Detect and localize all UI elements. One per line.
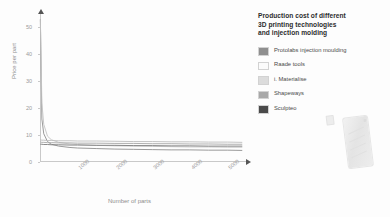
legend-swatch [258,76,269,85]
legend-items: Protolabs injection mouldingRaade toolsi… [258,47,386,114]
legend-swatch [258,62,269,71]
y-axis-label: Price per part [11,43,17,79]
legend-item[interactable]: Sculpteo [258,105,386,114]
legend-title-line-2: 3D printing technologies [258,21,380,30]
y-tick-label: 20 [6,105,32,111]
series-line [40,19,242,150]
y-tick-label: 0 [6,159,32,165]
y-tick-mark [38,162,40,163]
legend-item[interactable]: Protolabs injection moulding [258,47,386,56]
x-axis-arrow-icon [246,159,251,165]
chart-page: 01020304050 10002000300040005000 Price p… [0,0,390,217]
product-body [342,115,374,170]
legend: Production cost of different 3D printing… [258,12,386,119]
chart-region: 01020304050 10002000300040005000 Price p… [0,0,250,217]
y-tick-label: 30 [6,78,32,84]
y-tick-label: 50 [6,24,32,30]
legend-swatch [258,105,269,114]
product-small-part [326,115,335,126]
legend-item-label: Raade tools [274,61,305,68]
series-line [40,140,242,142]
y-tick-label: 40 [6,51,32,57]
legend-item-label: Shapeways [274,90,304,97]
legend-item[interactable]: Shapeways [258,90,386,99]
series-curves [40,14,246,162]
legend-swatch [258,47,269,56]
legend-item[interactable]: Raade tools [258,61,386,70]
legend-item-label: Protolabs injection moulding [274,47,347,54]
legend-title-line-3: and injection molding [258,29,380,38]
series-line [40,19,242,147]
legend-title: Production cost of different 3D printing… [258,12,380,38]
legend-item[interactable]: i. Materialise [258,76,386,85]
legend-swatch [258,91,269,100]
series-line [40,144,242,146]
product-render-3d-printed-case [342,115,374,170]
legend-item-label: Sculpteo [274,105,297,112]
legend-title-line-1: Production cost of different [258,12,380,21]
y-tick-label: 10 [6,132,32,138]
x-axis-label: Number of parts [108,198,151,204]
legend-item-label: i. Materialise [274,76,307,83]
